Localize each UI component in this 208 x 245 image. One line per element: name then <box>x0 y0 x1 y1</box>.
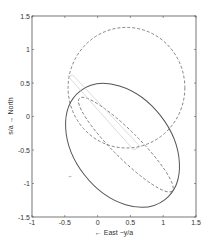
chart-figure: -1-0.500.511.5-1.5-1-0.500.511.5 ← East … <box>0 0 208 245</box>
x-axis-label: ← East −y/a <box>95 229 133 237</box>
series-dashed-narrow-ellipse <box>70 89 182 201</box>
marker <box>69 176 72 177</box>
plot-area <box>42 27 203 229</box>
series-faint-solid-quadrilateral <box>68 75 140 150</box>
axes: -1-0.500.511.5-1.5-1-0.500.511.5 <box>18 13 201 227</box>
y-tick-label: 0 <box>26 113 30 120</box>
y-tick-label: -1 <box>24 180 30 187</box>
y-tick-label: -1.5 <box>18 214 30 221</box>
y-tick-label: 1 <box>26 46 30 53</box>
x-tick-label: -0.5 <box>59 219 71 226</box>
series-solid-ellipse-lower- <box>42 61 203 229</box>
y-tick-label: 0.5 <box>20 80 30 87</box>
y-axis-label: s/a → North <box>7 97 14 134</box>
y-tick-label: -0.5 <box>18 147 30 154</box>
x-tick-label: 0 <box>96 219 100 226</box>
x-tick-label: 1 <box>161 219 165 226</box>
y-tick-label: 1.5 <box>20 13 30 20</box>
x-tick-label: 0.5 <box>126 219 136 226</box>
plot-frame <box>32 16 196 217</box>
x-tick-label: 1.5 <box>191 219 201 226</box>
